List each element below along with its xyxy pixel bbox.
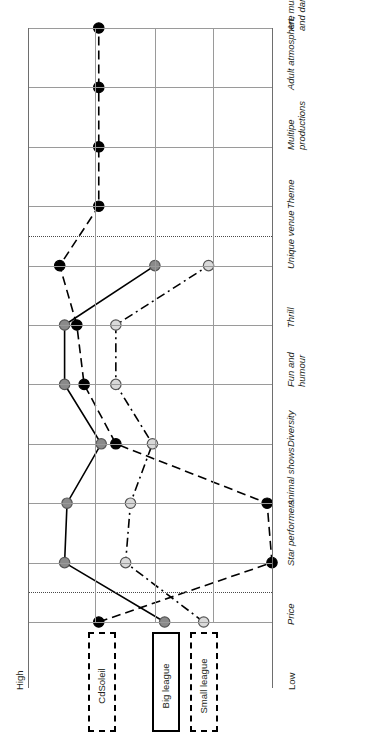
legend-item-cdsoleil[interactable]: CdSoleil — [88, 632, 116, 732]
category-label-fun-and-humour: Fun and — [286, 353, 297, 388]
legend-label: CdSoleil — [91, 638, 113, 734]
category-label-multipe-productions: productions — [297, 101, 308, 150]
gridline-star-performers — [28, 563, 272, 564]
category-label-diversity: Diversity — [286, 410, 297, 446]
axis-low-edge — [272, 28, 273, 688]
group-separator — [28, 236, 272, 237]
axis-label-high: High — [14, 670, 25, 690]
category-label-fun-and-humour: humour — [297, 355, 308, 387]
vertical-gridline — [95, 28, 96, 622]
legend-item-big-league[interactable]: Big league — [152, 632, 180, 732]
category-label-theme: Theme — [286, 180, 297, 210]
gridline-theme — [28, 206, 272, 207]
gridline-fun-and-humour — [28, 384, 272, 385]
gridline-adult-atmosphere — [28, 87, 272, 88]
category-label-star-performers: Star performers — [286, 500, 297, 566]
axis-label-low: Low — [286, 673, 297, 690]
group-separator — [28, 592, 272, 593]
gridline-animal-shows — [28, 503, 272, 504]
category-label-unique-venue: Unique venue — [286, 210, 297, 269]
gridline-thrill — [28, 325, 272, 326]
category-label-price: Price — [286, 603, 297, 625]
gridline-multipe-productions — [28, 147, 272, 148]
gridline-unique-venue — [28, 266, 272, 267]
gridline-diversity — [28, 444, 272, 445]
gridline-art-music-and-dance — [28, 28, 272, 29]
category-label-thrill: Thrill — [286, 307, 297, 328]
category-label-multipe-productions: Multipe — [286, 119, 297, 150]
legend-label: Small league — [193, 638, 215, 734]
strategy-canvas-figure: PriceStar performersAnimal showsDiversit… — [0, 0, 369, 736]
category-label-animal-shows: Animal shows — [286, 448, 297, 507]
gridline-price — [28, 622, 272, 623]
vertical-gridline — [155, 28, 156, 622]
legend-item-small-league[interactable]: Small league — [190, 632, 218, 732]
category-label-art-music-and-dance: Art, music — [286, 0, 297, 31]
legend-label: Big league — [155, 638, 177, 734]
category-label-art-music-and-dance: and dance — [297, 0, 308, 31]
axis-high-edge — [28, 28, 29, 688]
vertical-gridline — [213, 28, 214, 622]
